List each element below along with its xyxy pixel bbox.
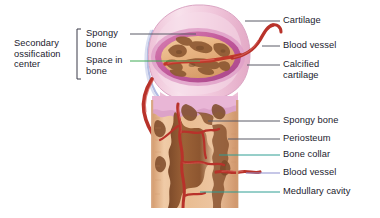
label-medullary-cavity: Medullary cavity bbox=[283, 186, 350, 197]
label-periosteum: Periosteum bbox=[283, 133, 331, 144]
label-bone-collar: Bone collar bbox=[283, 149, 330, 160]
label-blood-vessel-upper: Blood vessel bbox=[283, 40, 336, 51]
label-space-in-bone: Space in bone bbox=[86, 55, 134, 76]
label-blood-vessel-lower: Blood vessel bbox=[283, 167, 336, 178]
label-spongy-bone-upper: Spongy bone bbox=[86, 28, 132, 49]
label-cartilage: Cartilage bbox=[283, 15, 321, 26]
label-secondary-ossification-center: Secondary ossification center bbox=[14, 38, 84, 70]
label-spongy-bone-lower: Spongy bone bbox=[283, 115, 338, 126]
bone-diagram-figure: Secondary ossification center Spongy bon… bbox=[0, 0, 380, 218]
label-calcified-cartilage: Calcified cartilage bbox=[283, 59, 319, 80]
